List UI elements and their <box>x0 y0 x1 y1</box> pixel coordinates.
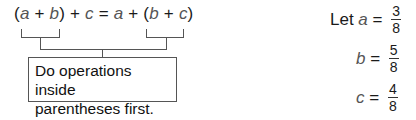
given-c: c = 48 <box>356 82 398 113</box>
left-bracket-stem <box>40 37 41 49</box>
paren-close: ) <box>188 4 194 23</box>
var-c: c <box>179 4 188 23</box>
bracket-connector <box>40 49 167 50</box>
numerator: 4 <box>388 82 398 98</box>
plus-sign: + <box>65 4 85 23</box>
denominator: 8 <box>389 98 397 113</box>
equals-sign: = <box>365 49 384 69</box>
var-a: a <box>20 4 30 23</box>
callout-line-1: Do operations inside <box>35 61 170 99</box>
var-a: a <box>114 4 124 23</box>
plus-sign: + <box>159 4 179 23</box>
given-b: b = 58 <box>356 43 399 74</box>
numerator: 3 <box>391 4 401 20</box>
equals-sign: = <box>368 10 387 30</box>
var-b: b <box>50 4 60 23</box>
plus-sign: + <box>123 4 143 23</box>
denominator: 8 <box>390 59 398 74</box>
left-bracket-left-tick <box>21 29 22 37</box>
plus-sign: + <box>30 4 50 23</box>
var-b: b <box>356 49 365 69</box>
right-bracket-bottom <box>146 37 184 38</box>
var-c: c <box>85 4 94 23</box>
equals-sign: = <box>94 4 114 23</box>
left-bracket-right-tick <box>59 29 60 37</box>
numerator: 5 <box>389 43 399 59</box>
associative-equation: (a + b) + c = a + (b + c) <box>14 4 193 24</box>
fraction-c: 48 <box>388 82 398 113</box>
right-bracket-right-tick <box>183 29 184 37</box>
right-bracket-stem <box>166 37 167 49</box>
equals-sign: = <box>365 88 384 108</box>
fraction-b: 58 <box>389 43 399 74</box>
let-label: Let <box>330 10 358 30</box>
given-a: Let a = 38 <box>330 4 401 35</box>
callout-line-2: parentheses first. <box>35 99 170 118</box>
var-b: b <box>149 4 159 23</box>
var-c: c <box>356 88 365 108</box>
right-bracket-left-tick <box>146 29 147 37</box>
fraction-a: 38 <box>391 4 401 35</box>
var-a: a <box>358 10 367 30</box>
callout-box: Do operations inside parentheses first. <box>28 57 177 102</box>
denominator: 8 <box>392 20 400 35</box>
connector-stem <box>102 49 103 57</box>
